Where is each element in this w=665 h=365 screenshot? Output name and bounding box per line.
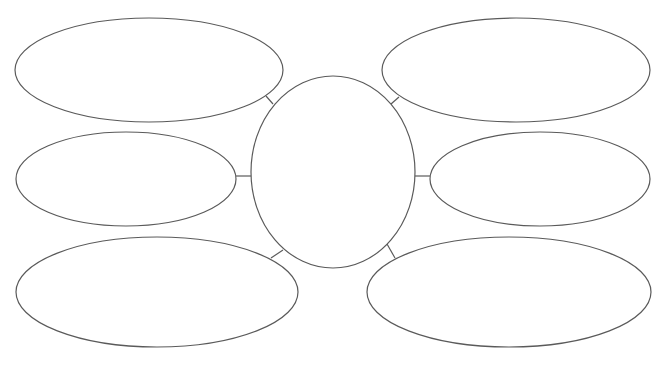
diagram-svg: [0, 0, 665, 365]
connector-top-right: [391, 97, 399, 104]
bubble-top-right-shape[interactable]: [382, 18, 650, 122]
bubble-top-left-shape[interactable]: [15, 18, 283, 122]
bubble-middle-right[interactable]: [430, 132, 650, 226]
connector-bottom-right: [387, 244, 395, 258]
connector-top-left: [266, 96, 273, 104]
bubble-bottom-left-shape[interactable]: [16, 237, 298, 347]
bubble-bottom-left[interactable]: [16, 237, 298, 347]
bubble-top-right[interactable]: [382, 18, 650, 122]
bubbles-group: [15, 18, 651, 347]
center-bubble[interactable]: [251, 76, 415, 268]
bubble-middle-left[interactable]: [16, 132, 236, 226]
bubble-bottom-right[interactable]: [367, 237, 651, 347]
bubble-middle-right-shape[interactable]: [430, 132, 650, 226]
connector-bottom-left: [271, 250, 283, 258]
bubble-middle-left-shape[interactable]: [16, 132, 236, 226]
center-bubble-shape[interactable]: [251, 76, 415, 268]
bubble-bottom-right-shape[interactable]: [367, 237, 651, 347]
bubble-map-diagram: [0, 0, 665, 365]
bubble-top-left[interactable]: [15, 18, 283, 122]
